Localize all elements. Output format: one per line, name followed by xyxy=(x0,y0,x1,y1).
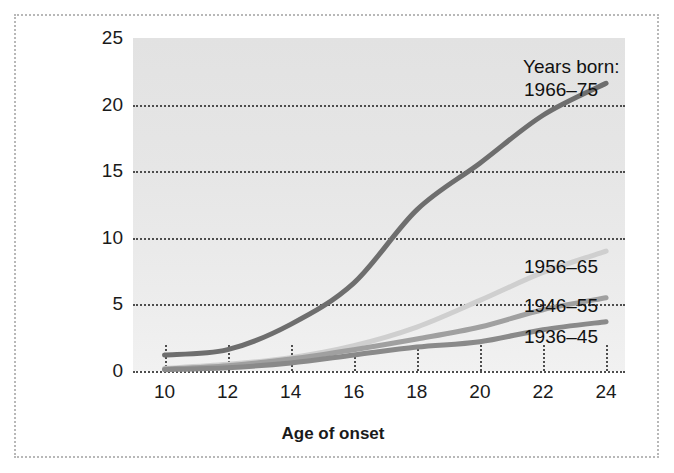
legend-title: Years born: xyxy=(523,56,619,78)
chart-figure: 0510152025 1012141618202224 Years born: … xyxy=(0,0,674,473)
series-label-1966-75: 1966–75 xyxy=(524,79,598,101)
y-tick-label: 10 xyxy=(102,227,123,249)
series-label-1946-55: 1946–55 xyxy=(524,295,598,317)
x-tick-label: 12 xyxy=(217,381,238,403)
x-tick-label: 22 xyxy=(532,381,553,403)
x-tick-label: 18 xyxy=(406,381,427,403)
x-tick-label: 24 xyxy=(595,381,616,403)
series-label-1936-45: 1936–45 xyxy=(524,326,598,348)
y-tick-label: 0 xyxy=(112,360,123,382)
x-tick-label: 16 xyxy=(343,381,364,403)
x-tick-label: 14 xyxy=(280,381,301,403)
plot-area: 0510152025 1012141618202224 Years born: … xyxy=(133,38,625,371)
x-tick-label: 20 xyxy=(469,381,490,403)
y-tick-label: 20 xyxy=(102,94,123,116)
y-tick-label: 15 xyxy=(102,160,123,182)
x-tick-label: 10 xyxy=(154,381,175,403)
gridline-y-0 xyxy=(133,371,625,373)
y-tick-label: 25 xyxy=(102,27,123,49)
x-axis-label: Age of onset xyxy=(133,424,533,444)
series-label-1956-65: 1956–65 xyxy=(524,256,598,278)
y-tick-label: 5 xyxy=(112,293,123,315)
